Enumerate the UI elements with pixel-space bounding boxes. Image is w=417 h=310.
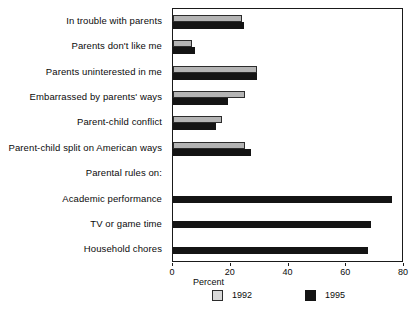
bar-1992 bbox=[173, 116, 222, 123]
bar-1995 bbox=[173, 98, 228, 105]
bar-1992 bbox=[173, 91, 245, 98]
legend-item-1995: 1995 bbox=[305, 288, 345, 302]
x-tick-label: 80 bbox=[398, 267, 408, 277]
category-label-column: In trouble with parentsParents don't lik… bbox=[0, 8, 167, 262]
category-label: Parents uninterested in me bbox=[46, 67, 162, 77]
bar-1995 bbox=[173, 247, 368, 254]
category-label: Parent-child conflict bbox=[77, 117, 162, 127]
horizontal-bar-chart: In trouble with parentsParents don't lik… bbox=[0, 0, 417, 310]
bar-1995 bbox=[173, 123, 216, 130]
bar-1995 bbox=[173, 149, 251, 156]
bar-1995 bbox=[173, 22, 244, 29]
category-label: Embarrassed by parents' ways bbox=[30, 92, 162, 102]
legend-item-1992: 1992 bbox=[212, 288, 252, 302]
x-tick-mark bbox=[345, 263, 346, 266]
chart-legend: 1992 1995 bbox=[0, 288, 417, 306]
bar-1995 bbox=[173, 221, 371, 228]
category-label: Household chores bbox=[84, 244, 162, 254]
legend-swatch-1995-icon bbox=[305, 290, 316, 301]
x-tick-label: 20 bbox=[225, 267, 235, 277]
category-label: Parent-child split on American ways bbox=[9, 143, 162, 153]
bar-1995 bbox=[173, 47, 195, 54]
legend-label-1992: 1992 bbox=[232, 290, 252, 300]
category-label: TV or game time bbox=[90, 219, 162, 229]
bars-container bbox=[173, 9, 402, 261]
x-tick-mark bbox=[172, 263, 173, 266]
x-tick-label: 40 bbox=[282, 267, 292, 277]
x-axis-title: Percent bbox=[0, 277, 417, 287]
x-tick-mark bbox=[403, 263, 404, 266]
x-tick-mark bbox=[288, 263, 289, 266]
bar-1992 bbox=[173, 66, 257, 73]
category-label: Academic performance bbox=[62, 194, 162, 204]
category-label: Parental rules on: bbox=[86, 168, 162, 178]
legend-swatch-1992-icon bbox=[212, 290, 223, 301]
bar-1992 bbox=[173, 40, 192, 47]
x-tick-label: 60 bbox=[340, 267, 350, 277]
category-label: In trouble with parents bbox=[66, 16, 162, 26]
legend-label-1995: 1995 bbox=[325, 290, 345, 300]
bar-1995 bbox=[173, 196, 392, 203]
bar-1992 bbox=[173, 15, 242, 22]
x-tick-mark bbox=[230, 263, 231, 266]
x-tick-label: 0 bbox=[169, 267, 174, 277]
category-label: Parents don't like me bbox=[71, 41, 162, 51]
plot-area bbox=[172, 8, 403, 262]
bar-1995 bbox=[173, 73, 257, 80]
bar-1992 bbox=[173, 142, 245, 149]
